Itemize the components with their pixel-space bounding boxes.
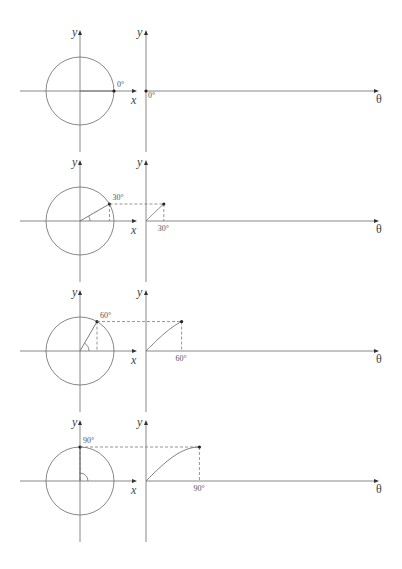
x-axis-label: x — [130, 483, 137, 497]
x-axis-label: x — [130, 93, 137, 107]
graph-point — [162, 202, 165, 205]
sine-graph: y θ 60° — [97, 285, 382, 412]
panel-30-degrees: y x 30° y θ 30° — [20, 155, 382, 282]
y-axis-label: y — [71, 155, 78, 169]
circle-angle-label: 90° — [83, 436, 94, 445]
graph-y-axis-label: y — [136, 155, 143, 169]
angle-arc — [89, 216, 90, 221]
sine-curve — [146, 447, 199, 481]
theta-axis-label: θ — [376, 92, 382, 106]
y-axis-arrow-icon — [78, 290, 82, 295]
radius-line — [80, 322, 97, 351]
graph-y-axis-label: y — [136, 25, 143, 39]
graph-y-axis-label: y — [136, 285, 143, 299]
theta-axis-label: θ — [376, 482, 382, 496]
circle-angle-label: 0° — [117, 80, 124, 89]
circle-point — [112, 89, 115, 92]
y-axis-arrow-icon — [78, 160, 82, 165]
unit-circle-plot: y x 0° — [20, 25, 137, 152]
graph-y-axis-arrow-icon — [144, 420, 148, 425]
theta-axis-label: θ — [376, 222, 382, 236]
panel-60-degrees: y x 60° y θ 60° — [20, 285, 382, 412]
graph-y-axis-label: y — [136, 415, 143, 429]
sine-curve — [146, 322, 182, 351]
sine-graph: y θ 90° — [80, 415, 382, 542]
y-axis-arrow-icon — [78, 420, 82, 425]
x-axis-label: x — [130, 223, 137, 237]
y-axis-arrow-icon — [78, 30, 82, 35]
graph-y-axis-arrow-icon — [144, 160, 148, 165]
sine-from-unit-circle-diagram: y x 0° y θ 0° y — [0, 0, 402, 569]
unit-circle-plot: y x 90° — [20, 415, 137, 542]
y-axis-label: y — [71, 25, 78, 39]
angle-arc — [80, 473, 88, 481]
graph-angle-label: 90° — [193, 484, 204, 493]
theta-axis-label: θ — [376, 352, 382, 366]
y-axis-label: y — [71, 285, 78, 299]
unit-circle-plot: y x 60° — [20, 285, 137, 412]
circle-angle-label: 60° — [100, 311, 111, 320]
graph-angle-label: 60° — [176, 354, 187, 363]
circle-angle-label: 30° — [112, 193, 123, 202]
sine-graph: y θ 30° — [109, 155, 382, 282]
graph-point — [180, 320, 183, 323]
graph-point — [198, 445, 201, 448]
sine-curve — [146, 204, 164, 221]
graph-y-axis-arrow-icon — [144, 290, 148, 295]
panel-90-degrees: y x 90° y θ 90° — [20, 415, 382, 542]
sine-graph: y θ 0° — [136, 25, 382, 152]
graph-y-axis-arrow-icon — [144, 30, 148, 35]
y-axis-label: y — [71, 415, 78, 429]
graph-angle-label: 0° — [148, 91, 155, 100]
graph-angle-label: 30° — [158, 224, 169, 233]
radius-line — [80, 204, 109, 221]
angle-arc — [85, 343, 90, 351]
x-axis-label: x — [130, 353, 137, 367]
panel-0-degrees: y x 0° y θ 0° — [20, 25, 382, 152]
unit-circle-plot: y x 30° — [20, 155, 137, 282]
